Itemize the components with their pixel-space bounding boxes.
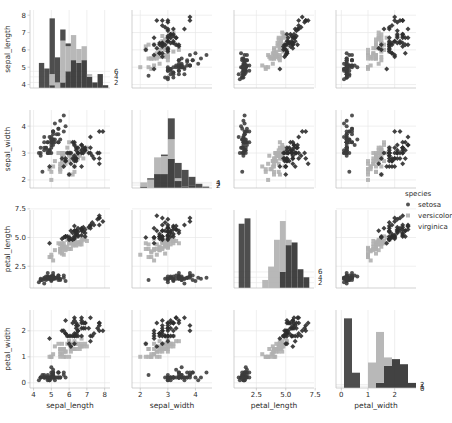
points-virginica [47,315,105,349]
x-tick-label: 3 [166,391,170,399]
y-tick-label: 8 [22,12,26,20]
diagonal-tick-label: 6 [114,68,119,76]
x-axis-label-sepal_width: sepal_width [150,401,195,410]
y-tick-label: 1 [22,353,26,361]
y-axis-label-sepal_length: sepal_length [3,25,12,73]
x-tick-label: 2.5 [251,391,262,399]
y-tick-label: 3 [22,150,26,158]
legend-entry-versicolor[interactable]: versicolor [406,212,452,220]
panel-petal_length-vs-sepal_width [132,209,212,288]
x-tick-label: 4 [193,391,198,399]
points-setosa [237,51,252,81]
panel-petal_length-vs-petal_length: 246 [234,210,323,288]
panel-sepal_width-vs-sepal_length: 234sepal_width [3,110,110,188]
legend-label: versicolor [418,212,452,220]
points-setosa [147,271,209,285]
legend-entry-setosa[interactable]: setosa [406,201,441,209]
y-axis-label-petal_width: petal_width [3,327,12,371]
points-setosa [342,113,359,173]
points-versicolor [366,31,391,71]
x-tick-label: 0 [339,391,343,399]
legend-entry-virginica[interactable]: virginica [406,223,448,231]
legend-label: setosa [418,201,441,209]
panel-sepal_length-vs-sepal_length: 24645678sepal_length [3,10,119,89]
panel-sepal_length-vs-petal_width [336,10,416,88]
y-tick-label: 4 [22,81,27,89]
panel-petal_width-vs-sepal_width: 234sepal_width [132,310,212,410]
points-setosa [37,365,68,382]
points-setosa [342,271,359,285]
points-virginica [277,129,310,177]
x-tick-label: 8 [102,391,106,399]
y-tick-label: 6 [22,46,27,54]
points-setosa [147,365,209,382]
x-tick-label: 2 [392,391,396,399]
x-tick-label: 6 [67,391,72,399]
x-tick-label: 2 [138,391,142,399]
y-tick-label: 2 [22,327,26,335]
pairplot-figure: 24645678sepal_length234sepal_width2342.5… [0,0,452,423]
legend-title: species [405,190,431,198]
legend: speciessetosaversicolorvirginica [405,190,452,231]
x-tick-label: 5.0 [280,391,291,399]
y-tick-label: 0 [22,379,26,387]
x-tick-label: 4 [31,391,36,399]
y-tick-label: 7.5 [15,205,26,213]
panel-petal_length-vs-sepal_length: 2.55.07.5petal_length [3,205,110,288]
panel-sepal_length-vs-sepal_width [132,10,212,88]
x-tick-label: 7 [85,391,89,399]
x-axis-label-sepal_length: sepal_length [46,401,94,410]
x-tick-label: 7.5 [310,391,321,399]
x-tick-label: 5 [49,391,53,399]
diagonal-tick-label: 6 [318,268,323,276]
points-virginica [376,14,410,71]
points-setosa [37,271,68,285]
points-setosa [237,365,252,382]
points-setosa [342,51,359,81]
diagonal-tick-label: 2 [420,381,424,389]
points-setosa [237,113,252,173]
points-virginica [143,213,192,246]
y-tick-label: 5 [22,64,26,72]
panel-petal_width-vs-sepal_length: 012petal_width45678sepal_length [3,310,110,410]
x-tick-label: 1 [366,391,370,399]
diagonal-tick-label: 4 [216,179,221,187]
y-axis-label-sepal_width: sepal_width [3,127,12,172]
panel-sepal_length-vs-petal_length [234,10,315,88]
y-tick-label: 2.5 [15,263,26,271]
panel-sepal_width-vs-petal_width [336,110,416,188]
y-tick-label: 5.0 [15,234,26,242]
x-axis-label-petal_length: petal_length [251,401,298,410]
y-tick-label: 4 [22,123,27,131]
panel-sepal_width-vs-petal_length [234,110,315,188]
pairplot-svg: 24645678sepal_length234sepal_width2342.5… [0,0,452,423]
legend-label: virginica [418,223,448,231]
panel-petal_length-vs-petal_width [336,209,416,288]
panel-sepal_width-vs-sepal_width: 234 [132,110,221,190]
panel-petal_width-vs-petal_width: 012012petal_width [336,310,424,410]
panel-petal_width-vs-petal_length: 2.55.07.5petal_length [234,310,321,410]
points-versicolor [48,334,89,359]
y-tick-label: 7 [22,29,26,37]
x-axis-label-petal_width: petal_width [354,401,398,410]
y-axis-label-petal_length: petal_length [3,225,12,272]
y-tick-label: 2 [22,176,26,184]
